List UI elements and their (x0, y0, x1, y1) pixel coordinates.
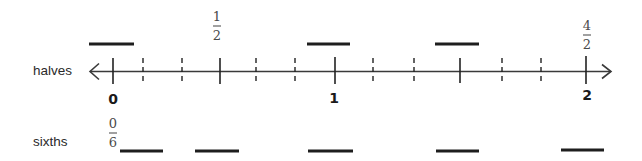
fraction-denominator: 6 (109, 135, 117, 150)
integer-label: 2 (582, 87, 592, 103)
fraction-numerator: 4 (583, 18, 591, 33)
sixth-ticks (143, 58, 541, 83)
integer-label: 0 (108, 91, 118, 107)
integer-labels: 012 (108, 87, 592, 107)
row-labels: halves sixths (33, 63, 72, 149)
number-line-diagram: halves sixths 012 124206 (0, 0, 642, 161)
fraction-label: 06 (109, 116, 117, 150)
fraction-labels: 124206 (109, 9, 591, 150)
half-ticks (113, 56, 586, 84)
sixths-bars (120, 150, 604, 151)
integer-label: 1 (329, 90, 339, 106)
fraction-denominator: 2 (213, 28, 221, 43)
number-line-axis (90, 64, 611, 80)
halves-row-label: halves (33, 63, 72, 78)
fraction-numerator: 0 (109, 116, 117, 131)
fraction-label: 42 (583, 18, 591, 52)
fraction-label: 12 (213, 9, 221, 43)
fraction-denominator: 2 (583, 37, 591, 52)
sixths-row-label: sixths (33, 134, 68, 149)
fraction-numerator: 1 (213, 9, 221, 24)
